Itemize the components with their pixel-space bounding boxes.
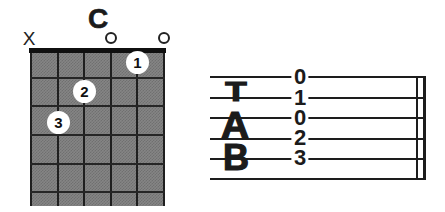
double-barline (423, 76, 426, 180)
fret-line (30, 105, 165, 107)
muted-string-icon: X (23, 29, 36, 48)
fret-line (30, 77, 165, 79)
fret-line (30, 163, 165, 165)
double-barline (416, 76, 418, 180)
string-line (30, 48, 32, 206)
open-string-icon (158, 32, 170, 44)
staff-line (210, 178, 426, 180)
finger-dot-2: 2 (73, 80, 96, 103)
fret-line (30, 134, 165, 136)
string-line (83, 48, 85, 206)
finger-dot-1: 1 (126, 51, 149, 74)
tab-fret-number: 3 (291, 147, 308, 169)
string-line (110, 48, 112, 206)
finger-dot-3: 3 (47, 111, 70, 134)
fret-line (30, 191, 165, 193)
tab-clef-letter-b: B (223, 140, 249, 176)
open-string-icon (105, 32, 117, 44)
chord-title: C (88, 5, 108, 33)
string-line (163, 48, 165, 206)
nut-bar (29, 48, 166, 53)
tab-clef-letter-t: T (225, 79, 246, 106)
chord-grid: 1 2 3 (30, 48, 165, 206)
figure-canvas: C X 1 2 3 (0, 0, 445, 212)
